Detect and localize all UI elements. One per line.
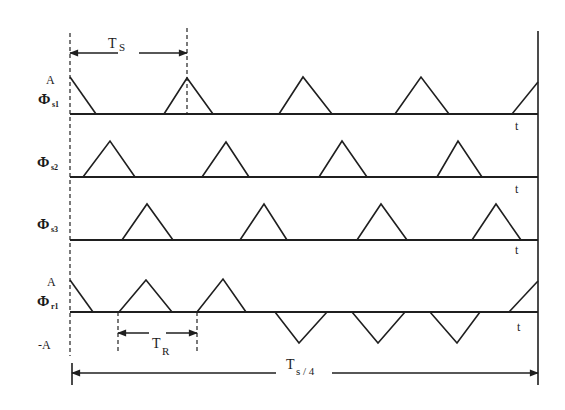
phi-r1-pulse [70, 280, 93, 312]
dimension-subscript: s / 4 [296, 365, 315, 377]
phi-r1-pulse [352, 312, 405, 343]
phi-r1-pulse [430, 312, 480, 343]
phi-s1-pulse [70, 77, 96, 114]
waveform-phi-s2 [70, 141, 538, 177]
axes-layer [70, 28, 538, 385]
flux-subscript: r1 [51, 302, 59, 311]
dimension-label: T [108, 36, 117, 51]
phi-s2-pulse [437, 141, 482, 177]
flux-subscript: s1 [52, 100, 59, 109]
phi-s1-pulse [512, 82, 538, 114]
dimension-label: T [286, 357, 295, 372]
phi-r1-pulse [509, 281, 538, 312]
phi-s2-pulse [83, 141, 135, 177]
time-axis-label: t [517, 320, 521, 334]
phi-r1-label: Φr1 [37, 293, 59, 311]
phi-s1-pulse [164, 78, 213, 114]
phi-s2-pulse [202, 142, 249, 177]
flux-waveform-diagram: TSTRTs / 4 Φs1AtΦs2tΦs3tΦr1A-At [0, 0, 565, 410]
waveform-phi-s3 [70, 204, 538, 240]
dimension-subscript: R [162, 345, 170, 357]
phi-r1-pulse [197, 279, 246, 312]
ts-quarter-dimension: Ts / 4 [72, 357, 538, 377]
waveforms-layer [70, 77, 538, 343]
tr-dimension: TR [118, 333, 197, 357]
phi-s2-pulse [319, 141, 367, 177]
flux-symbol: Φ [37, 293, 49, 309]
phi-s3-pulse [122, 204, 173, 240]
dimension-label: T [152, 336, 161, 351]
flux-symbol: Φ [37, 154, 49, 170]
amplitude-label: A [47, 275, 56, 289]
flux-symbol: Φ [37, 216, 49, 232]
waveform-phi-s1 [70, 77, 538, 114]
flux-subscript: s2 [51, 163, 58, 172]
phi-s1-pulse [279, 77, 332, 114]
flux-subscript: s3 [51, 225, 58, 234]
phi-s1-label: Φs1 [38, 91, 59, 109]
amplitude-label: A [46, 73, 55, 87]
phi-s3-pulse [472, 204, 521, 240]
time-axis-label: t [515, 243, 519, 257]
phi-s2-label: Φs2 [37, 154, 58, 172]
phi-s1-pulse [395, 77, 449, 114]
phi-s3-label: Φs3 [37, 216, 58, 234]
phi-s3-pulse [357, 204, 407, 240]
time-axis-label: t [515, 182, 519, 196]
ts-dimension: TS [70, 36, 187, 53]
phi-s3-pulse [240, 204, 287, 240]
time-axis-label: t [515, 119, 519, 133]
phi-r1-pulse [275, 312, 327, 343]
negative-amplitude-label: -A [38, 338, 51, 352]
dimension-subscript: S [119, 41, 125, 53]
flux-symbol: Φ [38, 91, 50, 107]
phi-r1-pulse [119, 280, 172, 312]
diagram-canvas: TSTRTs / 4 Φs1AtΦs2tΦs3tΦr1A-At [0, 0, 565, 410]
dimensions-layer: TSTRTs / 4 [70, 36, 538, 377]
